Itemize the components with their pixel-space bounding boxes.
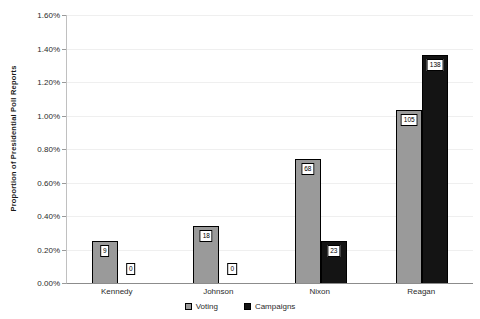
bar-chart: Proportion of Presidential Poll Reports … [0,0,480,319]
bar-group-johnson: 180 [169,15,271,283]
x-axis-label-johnson: Johnson [168,287,270,296]
bar-count-label: 105 [401,114,418,126]
y-tick-label: 1.40% [0,45,60,54]
legend-item-voting: Voting [185,302,218,311]
bar-count-label: 138 [427,59,444,71]
x-axis-label-nixon: Nixon [269,287,371,296]
bar-reagan-campaigns [422,55,448,283]
bar-slot-kennedy-voting: 9 [92,15,118,283]
bar-count-label: 0 [126,263,136,275]
y-tick-label: 0.60% [0,179,60,188]
bar-group-reagan: 105138 [372,15,474,283]
bar-count-label: 0 [227,263,237,275]
bar-slot-nixon-voting: 68 [295,15,321,283]
bar-count-label: 68 [301,163,314,175]
bar-count-label: 9 [100,245,110,257]
plot-area: 901806823105138 [66,15,473,284]
y-tick-label: 0.80% [0,145,60,154]
y-tick-label: 1.00% [0,112,60,121]
bar-nixon-voting [295,159,321,283]
bar-groups: 901806823105138 [67,15,473,283]
legend-label-campaigns: Campaigns [255,302,295,311]
y-tick-label: 0.20% [0,246,60,255]
bar-count-label: 18 [200,230,213,242]
y-tick-label: 1.60% [0,11,60,20]
legend: Voting Campaigns [0,302,480,311]
x-axis-labels: KennedyJohnsonNixonReagan [66,287,472,296]
y-tick-label: 0.40% [0,212,60,221]
bar-slot-reagan-voting: 105 [396,15,422,283]
bar-group-kennedy: 90 [67,15,169,283]
x-axis-label-kennedy: Kennedy [66,287,168,296]
bar-reagan-voting [396,110,422,283]
x-axis-label-reagan: Reagan [371,287,473,296]
campaigns-swatch-icon [244,303,251,310]
legend-item-campaigns: Campaigns [244,302,295,311]
legend-label-voting: Voting [196,302,218,311]
bar-slot-johnson-campaigns: 0 [219,15,245,283]
voting-swatch-icon [185,303,192,310]
y-tick-label: 0.00% [0,279,60,288]
bar-group-nixon: 6823 [270,15,372,283]
bar-count-label: 23 [327,245,340,257]
bar-slot-johnson-voting: 18 [193,15,219,283]
bar-slot-nixon-campaigns: 23 [321,15,347,283]
bar-slot-kennedy-campaigns: 0 [118,15,144,283]
bar-slot-reagan-campaigns: 138 [422,15,448,283]
y-tick-label: 1.20% [0,78,60,87]
